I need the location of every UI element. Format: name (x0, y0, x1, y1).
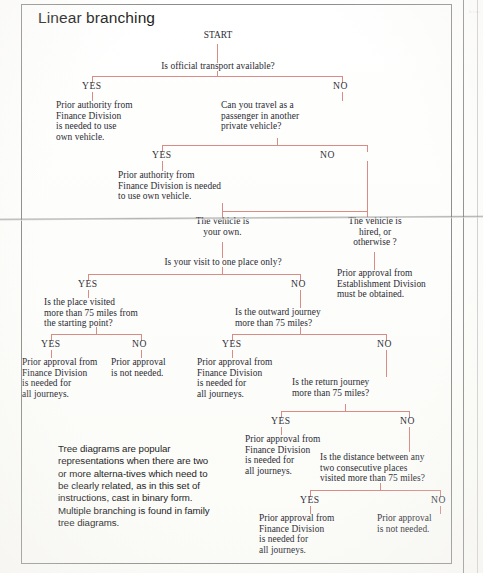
edge-q2-no-drop (367, 145, 368, 152)
node-outcome-finance-all-journeys-4: Prior approval from Finance Division is … (259, 513, 363, 555)
edge-q2-no-to-state (367, 161, 368, 216)
node-outcome-establishment-division: Prior approval from Establishment Divisi… (337, 268, 449, 300)
edge-q6-no-to-q7 (409, 427, 410, 452)
edge-label-q7-no: NO (431, 495, 446, 506)
edge-q4-split-bar (51, 334, 141, 335)
page-gutter-rule-inner (463, 0, 464, 573)
edge-state-split-bar (222, 211, 367, 212)
edge-q1-no-to-q2 (342, 92, 343, 101)
edge-label-q1-yes: YES (82, 81, 102, 92)
node-q-place-visited-75-miles: Is the place visited more than 75 miles … (44, 297, 179, 329)
edge-q3-split-bar (88, 274, 300, 275)
node-outcome-not-needed-2: Prior approval is not needed. (377, 513, 459, 534)
node-outcome-prior-authority-finance-needed: Prior authority from Finance Division is… (118, 170, 268, 202)
node-q-outward-journey-75-miles: Is the outward journey more than 75 mile… (235, 307, 353, 328)
edge-label-q6-no: NO (400, 416, 415, 427)
edge-label-q2-no: NO (320, 150, 335, 161)
edge-label-q2-yes: YES (152, 150, 172, 161)
edge-q7-split-bar (310, 490, 440, 491)
edge-label-q3-yes: YES (78, 279, 98, 290)
edge-q3-stem (222, 267, 223, 274)
node-state-vehicle-your-own: The vehicle is your own. (185, 216, 260, 237)
node-outcome-not-needed-1: Prior approval is not needed. (111, 357, 193, 378)
node-q-visit-one-place: Is your visit to one place only? (153, 257, 293, 268)
edge-label-q1-no: NO (333, 81, 348, 92)
edge-outcome-to-state-stem (222, 203, 223, 211)
node-start: START (192, 30, 244, 41)
edge-q1-stem (217, 71, 218, 77)
edge-q2-stem (277, 138, 278, 145)
node-q-return-journey-75-miles: Is the return journey more than 75 miles… (292, 377, 408, 398)
edge-q3-no-to-q5 (300, 290, 301, 308)
edge-label-q6-yes: YES (271, 416, 291, 427)
edge-q6-stem (345, 404, 346, 411)
edge-q5-split-bar (232, 334, 386, 335)
adjacent-column-ghost-text: h i n r i t t e l l u n o t i (469, 8, 480, 218)
figure-title: Linear branching (38, 9, 155, 27)
edge-q7-stem (380, 483, 381, 490)
edge-label-q5-yes: YES (222, 339, 242, 350)
scanned-page: h i n r i t t e l l u n o t i Linear bra… (0, 0, 483, 573)
node-outcome-prior-authority-finance-own-vehicle: Prior authority from Finance Division is… (56, 100, 186, 142)
node-q-official-transport: Is official transport available? (140, 61, 296, 72)
node-state-vehicle-hired: The vehicle is hired, or otherwise ? (338, 216, 412, 248)
edge-label-q3-no: NO (291, 279, 306, 290)
edge-q5-no-to-q6 (386, 350, 387, 377)
edge-label-q4-yes: YES (41, 339, 61, 350)
node-outcome-finance-all-journeys-1: Prior approval from Finance Division is … (22, 357, 122, 399)
edge-ownvehicle-to-q3 (222, 242, 223, 258)
edge-q2-split-bar (162, 145, 367, 146)
node-q-distance-consecutive-places: Is the distance between any two consecut… (320, 452, 454, 484)
figure-caption: Tree diagrams are popular representation… (58, 443, 210, 529)
edge-q6-split-bar (281, 411, 409, 412)
edge-label-q7-yes: YES (300, 495, 320, 506)
node-outcome-finance-all-journeys-2: Prior approval from Finance Division is … (197, 357, 301, 399)
node-q-passenger-private-vehicle: Can you travel as a passenger in another… (221, 100, 341, 132)
edge-label-q5-no: NO (377, 339, 392, 350)
edge-label-q4-no: NO (132, 339, 147, 350)
